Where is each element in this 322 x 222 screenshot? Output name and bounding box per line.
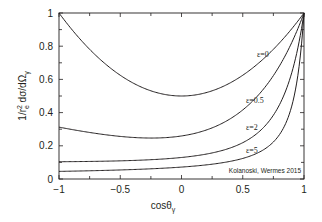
y-tick-label: 1 <box>47 8 53 19</box>
x-tick-label: −0.5 <box>110 184 130 195</box>
y-tick-label: 0.8 <box>39 41 53 52</box>
y-tick-label: 0.6 <box>39 74 53 85</box>
x-tick-label: 1 <box>301 184 307 195</box>
curve-eps0.5 <box>59 13 304 138</box>
curve-eps2 <box>59 13 304 162</box>
y-tick-label: 0.2 <box>39 140 53 151</box>
x-tick-label: 0 <box>179 184 185 195</box>
curve-eps5 <box>59 13 304 171</box>
curve-label-eps2: ε=2 <box>246 123 258 132</box>
y-tick-label: 0.4 <box>39 107 53 118</box>
klein-nishina-chart: −1−0.500.5100.20.40.60.81 ε=0 ε=0.5 ε=2 … <box>0 0 322 222</box>
plot-area <box>59 13 304 171</box>
x-tick-label: −1 <box>53 184 65 195</box>
curve-label-eps5: ε=5 <box>246 146 258 155</box>
credit-annotation: Kolanoski, Wermes 2015 <box>229 167 302 174</box>
x-tick-label: 0.5 <box>236 184 250 195</box>
curve-label-eps0: ε=0 <box>257 50 269 59</box>
x-axis-label: cosθγ <box>151 200 176 214</box>
curve-label-eps0.5: ε=0.5 <box>246 96 264 105</box>
y-axis-label: 1/r2e dσ/dΩγ <box>16 71 31 121</box>
y-tick-label: 0 <box>47 174 53 185</box>
